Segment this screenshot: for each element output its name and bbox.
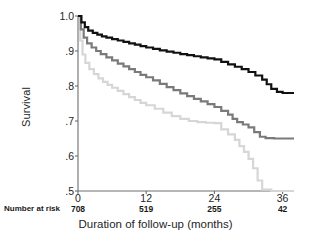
number-at-risk-value: 255 xyxy=(197,204,231,214)
y-tick-label: 1.0 xyxy=(48,11,74,21)
number-at-risk-value: 708 xyxy=(61,204,95,214)
numbers-at-risk-row: Number at risk 70851925542 xyxy=(0,204,311,217)
survival-curves xyxy=(78,16,294,191)
number-at-risk-value: 42 xyxy=(266,204,300,214)
x-tick-label: 12 xyxy=(131,192,161,204)
y-tick-label: .8 xyxy=(48,81,74,91)
x-tick-label: 36 xyxy=(268,192,298,204)
x-tick-label: 0 xyxy=(63,192,93,204)
survival-chart-figure: 1.0.9.8.7.6.5 Survival 0122436 Number at… xyxy=(0,0,311,239)
survival-curve-upper-curve xyxy=(78,16,294,93)
survival-curve-lower-curve xyxy=(78,16,294,191)
x-axis-title: Duration of follow-up (months) xyxy=(0,218,311,230)
numbers-at-risk-label: Number at risk xyxy=(4,204,60,213)
y-tick-label: .7 xyxy=(48,116,74,126)
x-tick-label: 24 xyxy=(199,192,229,204)
y-tick-label: .6 xyxy=(48,151,74,161)
y-tick-label: .9 xyxy=(48,46,74,56)
y-axis-title: Survival xyxy=(20,62,36,152)
axis-lines xyxy=(78,16,294,191)
number-at-risk-value: 519 xyxy=(129,204,163,214)
